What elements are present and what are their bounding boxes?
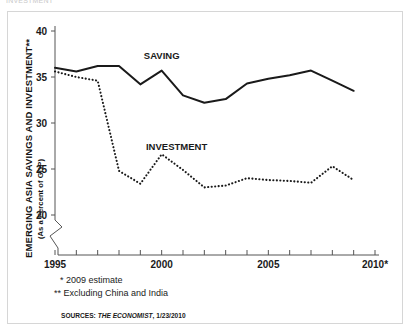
y-tick-label: 20 xyxy=(36,210,48,221)
clipped-header-text: INVESTMENT xyxy=(6,0,53,5)
x-tick-label: 2010* xyxy=(362,259,388,270)
sources-date: , 1/23/2010 xyxy=(153,312,186,319)
y-tick-label: 25 xyxy=(36,164,48,175)
sources-prefix: SOURCES: xyxy=(61,312,98,319)
y-axis-break-icon xyxy=(50,220,62,248)
x-tick-label: 2005 xyxy=(257,259,280,270)
y-tick-label: 40 xyxy=(36,26,48,37)
sources-publication: THE ECONOMIST xyxy=(98,312,153,319)
y-tick-label: 30 xyxy=(36,118,48,129)
series-label-investment: INVESTMENT xyxy=(146,141,207,152)
chart-figure-frame: EMERGING ASIA SAVINGS AND INVESTMENT** (… xyxy=(7,11,403,324)
series-label-saving: SAVING xyxy=(144,50,180,61)
x-tick-label: 2000 xyxy=(151,259,174,270)
x-tick-label: 1995 xyxy=(44,259,67,270)
series-line-saving xyxy=(55,66,354,103)
sources-line: SOURCES: THE ECONOMIST, 1/23/2010 xyxy=(61,312,186,319)
series-line-investment xyxy=(55,71,354,187)
y-tick-label: 35 xyxy=(36,72,48,83)
footnote-estimate: * 2009 estimate xyxy=(60,275,123,285)
footnote-exclusion: ** Excluding China and India xyxy=(54,288,168,298)
